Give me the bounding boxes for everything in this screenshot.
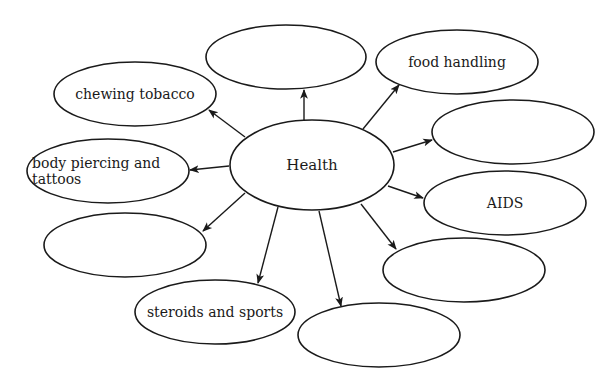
- node-label: AIDS: [486, 195, 523, 211]
- arrow-to-food-handling: [363, 85, 399, 129]
- arrow-to-body-piercing-and-tattoos: [190, 166, 229, 170]
- arrow-to-aids: [388, 186, 423, 198]
- arrow-to-left-lower: [203, 193, 245, 231]
- node-label-line: AIDS: [486, 195, 523, 211]
- arrow-to-right-upper: [393, 140, 432, 152]
- node-left-lower: [44, 213, 206, 277]
- node-top: [206, 25, 366, 89]
- node-bottom: [298, 303, 460, 367]
- center-label: Health: [286, 156, 338, 174]
- node-right-upper: [432, 100, 594, 164]
- node-label: chewing tobacco: [75, 86, 195, 102]
- node-steroids-and-sports: steroids and sports: [135, 280, 295, 344]
- node-ellipse: [432, 100, 594, 164]
- node-label-line: body piercing and: [32, 155, 160, 171]
- node-body-piercing-and-tattoos: body piercing andtattoos: [27, 139, 189, 203]
- node-label: food handling: [408, 54, 506, 70]
- node-ellipse: [44, 213, 206, 277]
- node-ellipse: [298, 303, 460, 367]
- center-node: Health: [230, 120, 394, 210]
- node-ellipse: [206, 25, 366, 89]
- arrow-to-steroids-and-sports: [258, 207, 278, 283]
- diagram-canvas: food handlingAIDSsteroids and sportsbody…: [0, 0, 616, 387]
- node-label-line: chewing tobacco: [75, 86, 195, 102]
- node-ellipse: [383, 238, 545, 302]
- arrow-to-chewing-tobacco: [209, 110, 245, 137]
- node-label: steroids and sports: [147, 304, 283, 320]
- node-aids: AIDS: [424, 171, 586, 235]
- node-label-line: tattoos: [32, 171, 81, 187]
- node-food-handling: food handling: [376, 30, 538, 94]
- arrow-to-right-lower: [361, 204, 396, 249]
- node-chewing-tobacco: chewing tobacco: [54, 62, 216, 126]
- arrow-to-bottom: [319, 211, 341, 306]
- node-label-line: steroids and sports: [147, 304, 283, 320]
- health-concept-web: food handlingAIDSsteroids and sportsbody…: [0, 0, 616, 387]
- node-label-line: food handling: [408, 54, 506, 70]
- node-right-lower: [383, 238, 545, 302]
